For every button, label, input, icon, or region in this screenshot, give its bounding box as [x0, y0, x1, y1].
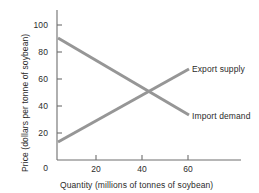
series-label-export-supply: Export supply	[192, 64, 245, 74]
export-supply-line	[58, 69, 189, 142]
x-axis-ticks	[96, 155, 188, 160]
import-demand-line	[58, 38, 189, 115]
x-tick-label-20: 20	[91, 164, 101, 174]
y-axis-title: Price (dollars per tonne of soybean)	[20, 34, 30, 172]
x-axis-title: Quantity (millions of tonnes of soybean)	[60, 180, 213, 190]
series-label-import-demand: Import demand	[192, 111, 250, 121]
y-tick-label-100: 100	[26, 20, 48, 30]
x-tick-label-60: 60	[183, 164, 193, 174]
x-tick-label-40: 40	[137, 164, 147, 174]
chart-figure: 100 80 60 40 20 0 20 40 60 Price (dollar…	[0, 0, 259, 193]
